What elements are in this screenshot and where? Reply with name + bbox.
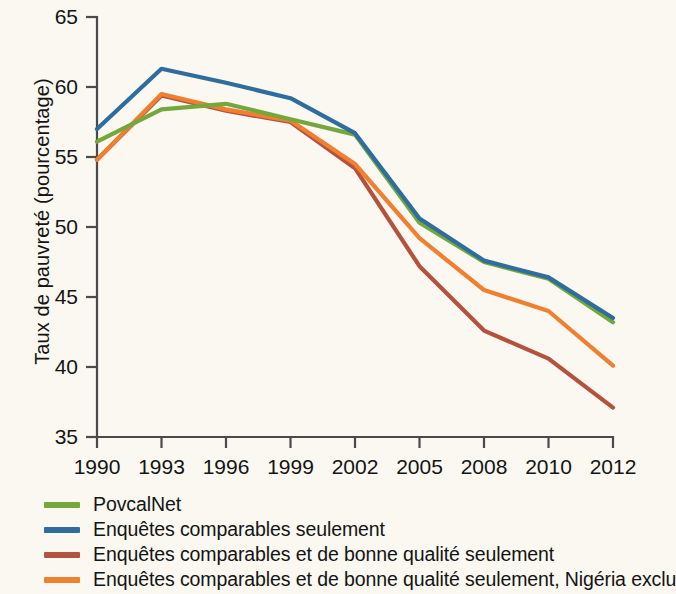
y-axis-title: Taux de pauvreté (pourcentage) bbox=[31, 12, 54, 432]
series-line-2 bbox=[97, 95, 613, 407]
x-tick-label: 2002 bbox=[332, 455, 379, 478]
x-tick-label: 1999 bbox=[267, 455, 314, 478]
legend-item-povcalnet: PovcalNet bbox=[44, 492, 656, 517]
legend-swatch-blue bbox=[44, 527, 80, 533]
x-tick-label: 2012 bbox=[590, 455, 637, 478]
chart-canvas: 3540455055606519901993199619992002200520… bbox=[0, 0, 656, 490]
y-tick-label: 40 bbox=[55, 355, 78, 378]
y-tick-label: 50 bbox=[55, 215, 78, 238]
legend-item-comparable-good-quality-excl-nigeria: Enquêtes comparables et de bonne qualité… bbox=[44, 567, 656, 592]
x-tick-label: 2008 bbox=[461, 455, 508, 478]
legend-label-comparable-surveys: Enquêtes comparables seulement bbox=[93, 518, 385, 541]
x-tick-label: 1996 bbox=[203, 455, 250, 478]
legend-label-comparable-good-quality: Enquêtes comparables et de bonne qualité… bbox=[93, 543, 554, 566]
x-tick-label: 1990 bbox=[74, 455, 121, 478]
y-tick-label: 65 bbox=[55, 5, 78, 28]
legend-label-povcalnet: PovcalNet bbox=[93, 493, 181, 516]
legend-item-comparable-good-quality: Enquêtes comparables et de bonne qualité… bbox=[44, 542, 656, 567]
legend-swatch-red bbox=[44, 552, 80, 558]
x-tick-label: 2010 bbox=[525, 455, 572, 478]
legend-swatch-green bbox=[44, 502, 80, 508]
x-tick-label: 1993 bbox=[138, 455, 185, 478]
y-tick-label: 60 bbox=[55, 75, 78, 98]
legend-label-comparable-good-quality-excl-nigeria: Enquêtes comparables et de bonne qualité… bbox=[93, 568, 676, 591]
y-tick-label: 55 bbox=[55, 145, 78, 168]
chart-legend: PovcalNet Enquêtes comparables seulement… bbox=[44, 492, 656, 592]
plot-area: Taux de pauvreté (pourcentage) 354045505… bbox=[0, 0, 656, 490]
y-tick-label: 35 bbox=[55, 425, 78, 448]
x-tick-label: 2005 bbox=[396, 455, 443, 478]
y-tick-label: 45 bbox=[55, 285, 78, 308]
legend-swatch-orange bbox=[44, 577, 80, 583]
legend-item-comparable-surveys: Enquêtes comparables seulement bbox=[44, 517, 656, 542]
